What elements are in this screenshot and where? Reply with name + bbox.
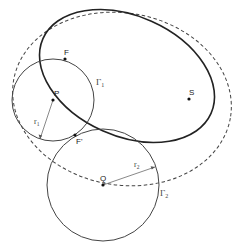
point-Q	[101, 183, 104, 186]
label-Q: Q	[100, 174, 106, 183]
point-P	[51, 98, 54, 101]
label-r2: r2	[134, 160, 140, 170]
label-r1: r1	[34, 117, 40, 127]
label-gamma1: Γ1	[96, 77, 104, 88]
label-F-prime: F'	[76, 137, 83, 146]
radius-r2-arrowhead	[151, 166, 155, 169]
solid-ellipse	[19, 0, 236, 168]
label-gamma2: Γ2	[160, 188, 168, 199]
label-gamma2-subscript: 2	[165, 193, 168, 199]
label-gamma1-subscript: 1	[101, 82, 104, 88]
diagram-canvas: F P F' S Q Γ1 Γ2 r1 r2	[0, 0, 240, 250]
label-r1-subscript: 1	[37, 121, 40, 127]
dashed-ellipse	[0, 0, 240, 203]
label-P: P	[54, 89, 59, 98]
label-S: S	[189, 88, 194, 97]
radius-r2-line	[103, 167, 155, 185]
radius-r1-line	[40, 100, 53, 139]
point-S	[187, 97, 190, 100]
label-F: F	[64, 48, 69, 57]
label-r2-subscript: 2	[137, 164, 140, 170]
point-F	[63, 57, 66, 60]
